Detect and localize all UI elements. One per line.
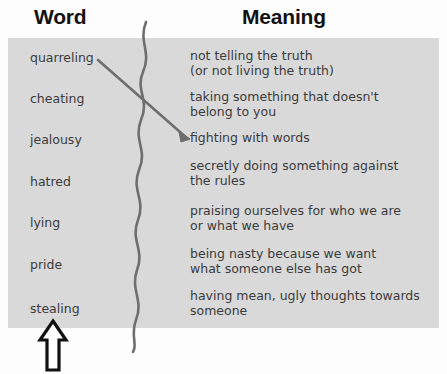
word-item: hatred: [30, 174, 71, 189]
meaning-item: fighting with words: [190, 130, 442, 145]
meaning-item: taking something that doesn't belong to …: [190, 89, 442, 119]
upward-pointer-arrow-icon: [36, 318, 70, 374]
meaning-item: secretly doing something against the rul…: [190, 158, 442, 188]
meaning-column: not telling the truth (or not living the…: [182, 38, 439, 328]
meaning-item: not telling the truth (or not living the…: [190, 48, 442, 78]
column-heading-word: Word: [34, 5, 86, 29]
word-item: cheating: [30, 91, 84, 106]
word-item: pride: [30, 257, 62, 272]
word-item: jealousy: [30, 132, 82, 147]
upward-pointer-arrow-path: [40, 321, 66, 370]
word-item: quarreling: [30, 50, 94, 65]
meaning-item: praising ourselves for who we are or wha…: [190, 203, 442, 233]
meaning-item: having mean, ugly thoughts towards someo…: [190, 288, 442, 318]
worksheet-page: Word Meaning quarreling cheating jealous…: [0, 0, 447, 374]
meaning-item: being nasty because we want what someone…: [190, 246, 442, 276]
word-item: stealing: [30, 301, 80, 316]
word-item: lying: [30, 215, 60, 230]
word-column: quarreling cheating jealousy hatred lyin…: [8, 38, 128, 328]
column-heading-meaning: Meaning: [242, 5, 326, 29]
